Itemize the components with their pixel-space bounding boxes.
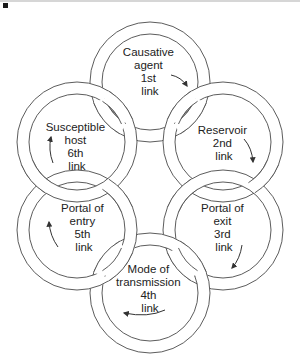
link-label-portal-of-entry: Portal of entry 5th link (61, 202, 107, 253)
arrow-3-to-4 (232, 245, 242, 268)
link-label-susceptible-host: Susceptible host 6th link (46, 121, 109, 172)
chain-of-infection-diagram: Causative agent 1st link Reservoir 2nd l… (0, 0, 300, 362)
link-label-causative-agent: Causative agent 1st link (123, 46, 177, 97)
arrow-6-to-1 (50, 137, 53, 163)
arrow-5-to-6 (49, 222, 58, 247)
link-label-mode-of-transmission: Mode of transmission 4th link (116, 263, 184, 314)
link-label-portal-of-exit: Portal of exit 3rd link (201, 202, 247, 253)
arrow-1-to-2 (171, 75, 187, 86)
arrow-2-to-3 (244, 139, 253, 162)
link-label-reservoir: Reservoir 2nd link (198, 124, 250, 162)
